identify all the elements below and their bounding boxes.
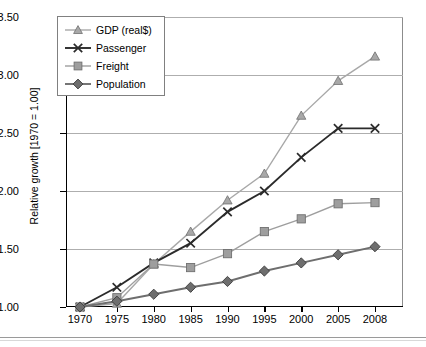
x-tick-mark xyxy=(117,307,118,312)
data-point xyxy=(334,76,343,84)
x-tick-mark xyxy=(301,307,302,312)
y-tick-label: 2.50 xyxy=(0,127,19,139)
y-tick-label: 3.50 xyxy=(0,11,19,23)
legend-x-icon xyxy=(63,40,93,56)
data-point xyxy=(150,260,158,268)
legend-item-freight: Freight xyxy=(63,57,159,75)
data-point xyxy=(297,215,305,223)
data-point xyxy=(370,52,379,60)
y-tick-label: 2.00 xyxy=(0,185,19,197)
y-tick-mark xyxy=(60,307,66,308)
legend-item-passenger: Passenger xyxy=(63,39,159,57)
x-tick-mark xyxy=(191,307,192,312)
x-tick-label: 2008 xyxy=(352,313,398,325)
legend-triangle-icon xyxy=(63,22,93,38)
data-point xyxy=(259,266,269,276)
data-point xyxy=(260,187,268,195)
y-tick-label: 1.00 xyxy=(0,301,19,313)
data-point xyxy=(334,200,342,208)
x-tick-mark xyxy=(154,307,155,312)
legend-label: Freight xyxy=(93,60,129,72)
legend-label: Passenger xyxy=(93,42,146,54)
legend: GDP (real$) Passenger Freight Population xyxy=(57,16,165,96)
legend-square-icon xyxy=(63,58,93,74)
data-point xyxy=(113,283,121,291)
data-point xyxy=(223,196,232,204)
x-tick-mark xyxy=(338,307,339,312)
data-point xyxy=(296,258,306,268)
data-point xyxy=(260,169,269,177)
x-tick-mark xyxy=(228,307,229,312)
data-point xyxy=(186,282,196,292)
footer-divider-secondary xyxy=(0,340,426,341)
y-axis-title: Relative growth [1970 = 1.00] xyxy=(28,46,40,266)
legend-label: GDP (real$) xyxy=(93,24,152,36)
chart-figure: Relative growth [1970 = 1.00] 1.001.502.… xyxy=(0,0,426,347)
legend-label: Population xyxy=(93,78,146,90)
y-tick-label: 3.00 xyxy=(0,69,19,81)
data-point xyxy=(371,199,379,207)
legend-item-gdp: GDP (real$) xyxy=(63,21,159,39)
legend-item-population: Population xyxy=(63,75,159,93)
y-tick-label: 1.50 xyxy=(0,243,19,255)
legend-diamond-icon xyxy=(63,76,93,92)
data-point xyxy=(333,250,343,260)
data-point xyxy=(370,242,380,252)
data-point xyxy=(149,289,159,299)
data-point xyxy=(297,153,305,161)
x-tick-mark xyxy=(375,307,376,312)
x-tick-mark xyxy=(264,307,265,312)
footer-divider xyxy=(0,337,426,338)
data-point xyxy=(187,263,195,271)
data-point xyxy=(186,239,194,247)
data-point xyxy=(260,228,268,236)
data-point xyxy=(223,250,231,258)
data-point xyxy=(223,208,231,216)
data-point xyxy=(222,276,232,286)
